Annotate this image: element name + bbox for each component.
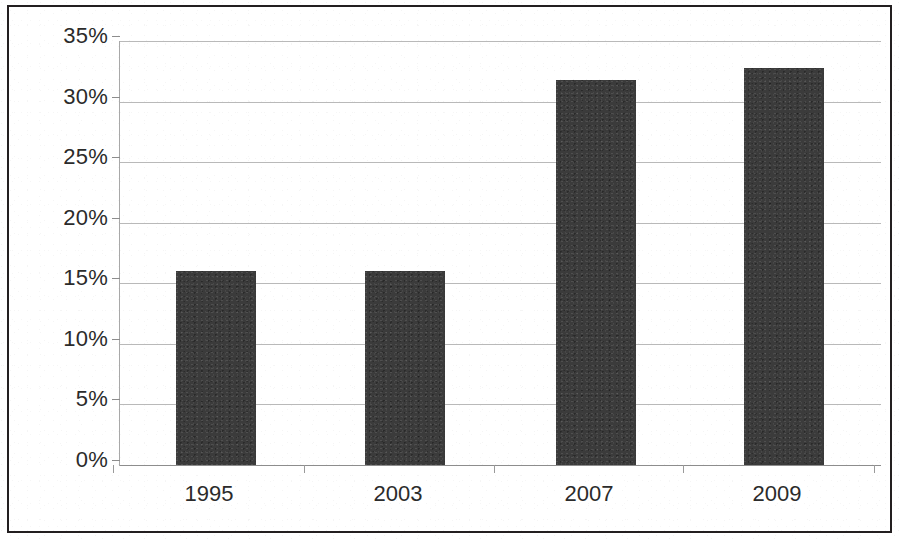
y-axis-tick-label: 20% — [12, 207, 108, 229]
y-axis-tick-label: 5% — [12, 388, 108, 410]
x-axis-label-2003: 2003 — [338, 482, 458, 506]
bar-2003[interactable] — [365, 271, 445, 465]
gridline — [120, 465, 881, 466]
y-axis-tick — [112, 97, 120, 98]
chart-page: 0%5%10%15%20%25%30%35% 1995200320072009 — [0, 0, 900, 539]
bar-1995[interactable] — [176, 271, 256, 465]
plot-area — [120, 41, 881, 465]
gridline — [120, 41, 881, 42]
y-axis-tick-label: 15% — [12, 267, 108, 289]
y-axis-tick-label: 35% — [12, 25, 108, 47]
y-axis-tick-label: 25% — [12, 146, 108, 168]
y-axis-tick — [112, 278, 120, 279]
y-axis-tick — [112, 218, 120, 219]
bar-2009[interactable] — [744, 68, 824, 465]
y-axis-labels: 0%5%10%15%20%25%30%35% — [9, 7, 108, 535]
y-axis-tick-label: 0% — [12, 449, 108, 471]
y-axis-tick — [112, 460, 120, 461]
chart-frame: 0%5%10%15%20%25%30%35% 1995200320072009 — [7, 5, 892, 533]
y-axis-tick — [112, 399, 120, 400]
x-axis-tick — [304, 465, 305, 473]
x-axis-label-1995: 1995 — [149, 482, 269, 506]
x-axis-label-2007: 2007 — [529, 482, 649, 506]
y-axis-tick-label: 30% — [12, 86, 108, 108]
y-axis-tick-label: 10% — [12, 328, 108, 350]
x-axis-tick — [494, 465, 495, 473]
x-axis-tick — [874, 465, 875, 473]
y-axis-tick — [112, 339, 120, 340]
x-axis-label-2009: 2009 — [717, 482, 837, 506]
x-axis-tick — [113, 465, 114, 473]
y-axis-tick — [112, 36, 120, 37]
y-axis-tick — [112, 157, 120, 158]
x-axis-tick — [683, 465, 684, 473]
bar-2007[interactable] — [556, 80, 636, 465]
